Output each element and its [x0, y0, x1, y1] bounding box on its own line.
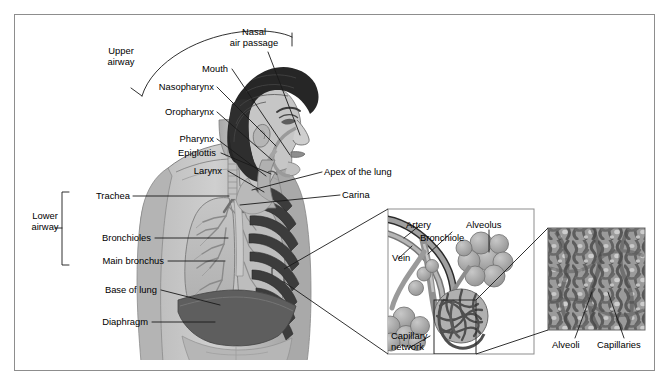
label-oropharynx: Oropharynx — [148, 106, 214, 117]
label-capillaries: Capillaries — [597, 339, 641, 350]
label-bronchioles: Bronchioles — [85, 232, 151, 243]
label-alveoli: Alveoli — [552, 339, 580, 350]
capillary-network-line2: network — [391, 342, 427, 353]
label-main-bronchus: Main bronchus — [76, 255, 164, 266]
label-trachea: Trachea — [80, 190, 130, 201]
label-apex-of-the-lung: Apex of the lung — [324, 166, 392, 177]
label-alveolus: Alveolus — [466, 219, 501, 230]
lower-airway-bracket-label: Lower airway — [20, 211, 70, 232]
label-mouth: Mouth — [166, 63, 228, 74]
label-vein: Vein — [392, 252, 410, 263]
label-nasal-air-passage: Nasal air passage — [218, 27, 290, 48]
upper-airway-bracket-label: Upper airway — [95, 46, 147, 67]
label-pharynx: Pharynx — [158, 133, 214, 144]
label-carina: Carina — [342, 189, 370, 200]
lower-airway-line1: Lower — [20, 211, 70, 222]
figure-canvas: Upper airway Lower airway Nasal air pass… — [0, 0, 670, 388]
nasal-air-passage-line1: Nasal — [218, 27, 290, 38]
label-artery: Artery — [406, 219, 431, 230]
upper-airway-line1: Upper — [95, 46, 147, 57]
label-bronchiole: Bronchiole — [420, 232, 464, 243]
label-diaphragm: Diaphragm — [83, 316, 148, 327]
label-nasopharynx: Nasopharynx — [146, 81, 214, 92]
label-base-of-lung: Base of lung — [80, 284, 157, 295]
nasal-air-passage-line2: air passage — [218, 38, 290, 49]
label-larynx: Larynx — [168, 165, 222, 176]
label-epiglottis: Epiglottis — [152, 147, 216, 158]
capillary-network-line1: Capillary — [391, 331, 427, 342]
upper-airway-line2: airway — [95, 57, 147, 68]
label-capillary-network: Capillary network — [391, 331, 427, 352]
lower-airway-line2: airway — [20, 222, 70, 233]
